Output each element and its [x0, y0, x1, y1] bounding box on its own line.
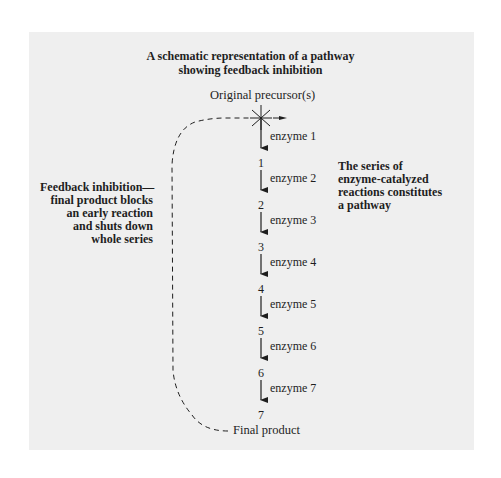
feedback-loop-arrow — [172, 118, 250, 431]
pathway-graphics — [0, 0, 501, 478]
blocked-arrowhead-icon — [279, 116, 287, 120]
